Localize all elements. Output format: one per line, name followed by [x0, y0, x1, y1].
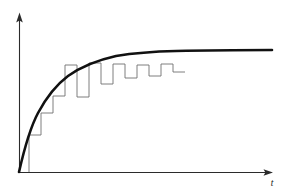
chart-canvas: t [0, 0, 292, 191]
figure-container: t [0, 0, 292, 191]
staircase-approximation [29, 63, 185, 172]
x-axis: t [19, 169, 274, 188]
staircase-path [29, 63, 185, 172]
exponential-curve [19, 50, 272, 172]
y-axis [16, 13, 23, 173]
x-axis-label: t [271, 178, 274, 188]
curve-path [19, 50, 272, 172]
